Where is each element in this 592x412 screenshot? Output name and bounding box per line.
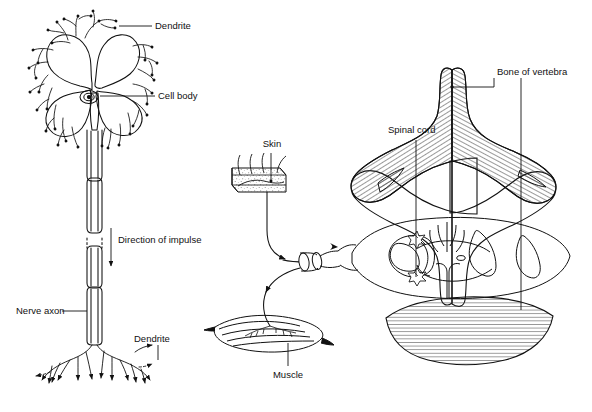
- biology-diagram: Dendrite Cell body Direction of impulse …: [0, 0, 592, 412]
- label-muscle: Muscle: [273, 369, 303, 380]
- label-nerve-axon: Nerve axon: [16, 305, 65, 316]
- label-bone-of-vertebra: Bone of vertebra: [497, 66, 568, 77]
- label-cell-body: Cell body: [158, 90, 198, 101]
- label-dendrite-top: Dendrite: [155, 20, 191, 31]
- label-dendrite-bottom: Dendrite: [134, 333, 170, 344]
- label-spinal-cord: Spinal cord: [388, 124, 436, 135]
- label-skin: Skin: [263, 138, 281, 149]
- label-direction-of-impulse: Direction of impulse: [118, 234, 201, 245]
